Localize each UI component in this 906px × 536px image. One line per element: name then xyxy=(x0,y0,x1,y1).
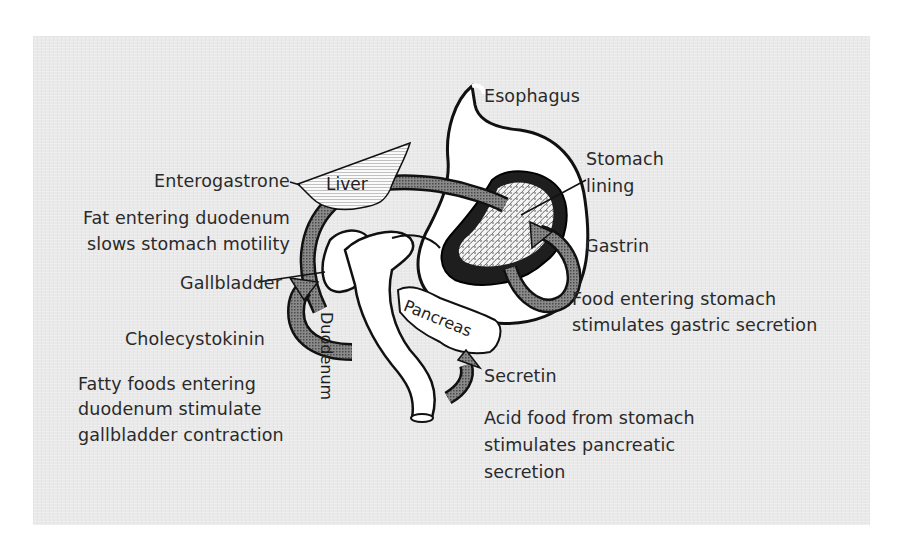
hormone-secretin: Secretin xyxy=(484,363,557,389)
enterogastrone-desc-line2: slows stomach motility xyxy=(40,231,290,257)
gastrin-desc-line2: stimulates gastric secretion xyxy=(572,312,817,338)
label-duodenum: Duodenum xyxy=(317,312,336,400)
label-liver: Liver xyxy=(326,174,368,194)
gastrin-desc-line1: Food entering stomach xyxy=(572,286,776,312)
hormone-enterogastrone: Enterogastrone xyxy=(60,168,290,194)
secretin-pathway xyxy=(448,350,480,398)
secretin-desc-line3: secretion xyxy=(484,459,566,485)
label-esophagus: Esophagus xyxy=(484,83,580,109)
cholecystokinin-desc-line3: gallbladder contraction xyxy=(78,422,284,448)
secretin-desc-line1: Acid food from stomach xyxy=(484,405,695,431)
cholecystokinin-desc-line1: Fatty foods entering xyxy=(78,371,256,397)
hormone-cholecystokinin: Cholecystokinin xyxy=(125,326,265,352)
secretin-desc-line2: stimulates pancreatic xyxy=(484,432,675,458)
cholecystokinin-desc-line2: duodenum stimulate xyxy=(78,396,262,422)
digestive-system-illustration xyxy=(0,0,906,536)
label-gallbladder: Gallbladder xyxy=(60,270,282,296)
hormone-gastrin: Gastrin xyxy=(585,233,649,259)
label-stomach: Stomach xyxy=(586,146,664,172)
enterogastrone-desc-line1: Fat entering duodenum xyxy=(40,205,290,231)
label-lining: lining xyxy=(586,173,634,199)
